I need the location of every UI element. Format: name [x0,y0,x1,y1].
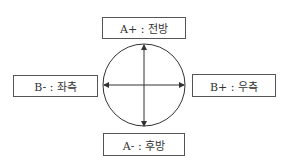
label-box-left: B- : 좌측 [13,75,98,97]
label-box-front: A+ : 전방 [102,17,186,39]
label-box-right: B+ : 우측 [192,74,276,97]
label-back-text: A- : 후방 [123,137,165,153]
label-left-text: B- : 좌측 [34,78,77,94]
label-box-back: A- : 후방 [103,133,185,156]
label-right-text: B+ : 우측 [210,78,258,94]
label-front-text: A+ : 전방 [120,20,168,36]
